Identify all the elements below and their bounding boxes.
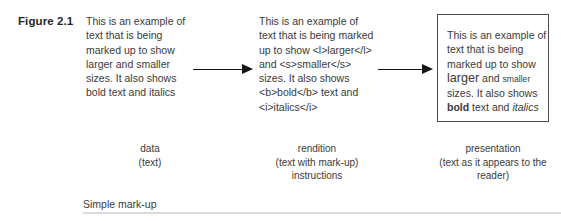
caption-rendition: rendition (text with mark-up) instructio… [259, 142, 375, 183]
caption-rendition-sub: (text with mark-up) instructions [259, 156, 375, 183]
footer-divider [83, 212, 561, 214]
presentation-larger: larger [447, 71, 479, 85]
caption-presentation: presentation (text as it appears to the … [430, 142, 556, 183]
caption-data-title: data [100, 142, 200, 156]
arrow-shaft [378, 69, 423, 70]
presentation-smaller: smaller [503, 74, 531, 84]
arrow-shaft [193, 69, 243, 70]
arrow-right-icon-2 [378, 64, 433, 75]
arrow-head [242, 64, 253, 74]
presentation-lead: This is an example of text that is being… [447, 29, 546, 70]
presentation-italics: italics [512, 101, 538, 113]
presentation-bold: bold [447, 101, 469, 113]
presentation-column-text: This is an example of text that is being… [447, 28, 551, 115]
figure-diagram: Figure 2.1 This is an example of text th… [0, 0, 561, 221]
caption-data-sub: (text) [100, 156, 200, 170]
presentation-middle: sizes. It also shows [447, 87, 537, 99]
caption-rendition-title: rendition [259, 142, 375, 156]
presentation-and: and [479, 72, 502, 84]
arrow-head [422, 64, 433, 74]
caption-presentation-title: presentation [430, 142, 556, 156]
presentation-text-and: text and [469, 101, 512, 113]
figure-label: Figure 2.1 [18, 15, 73, 27]
caption-data: data (text) [100, 142, 200, 169]
caption-presentation-sub: (text as it appears to the reader) [430, 156, 556, 183]
rendition-column-text: This is an example of text that is being… [259, 14, 375, 114]
figure-footer-label: Simple mark-up [83, 198, 157, 210]
data-column-text: This is an example of text that is being… [86, 14, 186, 100]
arrow-right-icon [193, 64, 253, 75]
